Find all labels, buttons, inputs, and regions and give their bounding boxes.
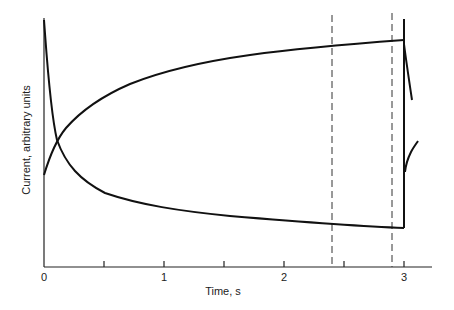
x-tick-label-1: 1 bbox=[161, 271, 167, 283]
decaying-current-curve bbox=[44, 20, 404, 228]
x-ticks bbox=[104, 261, 404, 267]
chart-canvas: 0 1 2 3 Time, s Current, arbitrary units bbox=[0, 0, 454, 310]
rising-current-curve bbox=[44, 40, 404, 175]
x-axis-title: Time, s bbox=[205, 285, 241, 297]
post-switch-falling-curve bbox=[404, 44, 412, 100]
x-tick-label-3: 3 bbox=[401, 271, 407, 283]
x-tick-label-0: 0 bbox=[41, 271, 47, 283]
x-tick-label-2: 2 bbox=[281, 271, 287, 283]
y-axis-title: Current, arbitrary units bbox=[20, 85, 32, 195]
post-switch-rising-curve bbox=[405, 141, 418, 172]
